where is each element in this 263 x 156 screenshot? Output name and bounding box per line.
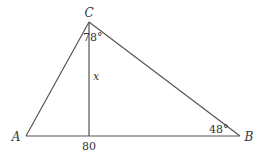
vertex-label-a: A bbox=[11, 130, 21, 144]
vertex-label-b: B bbox=[244, 130, 254, 144]
altitude-label-x: x bbox=[93, 70, 100, 83]
side-ac bbox=[26, 22, 89, 136]
side-cb bbox=[89, 22, 240, 136]
vertex-label-c: C bbox=[84, 6, 93, 20]
angle-b-label: 48° bbox=[209, 123, 229, 136]
triangle bbox=[26, 22, 240, 136]
triangle-diagram: C A B 78° 48° x 80 bbox=[0, 0, 263, 156]
angle-c-label: 78° bbox=[83, 31, 103, 44]
base-length-label: 80 bbox=[82, 140, 96, 153]
